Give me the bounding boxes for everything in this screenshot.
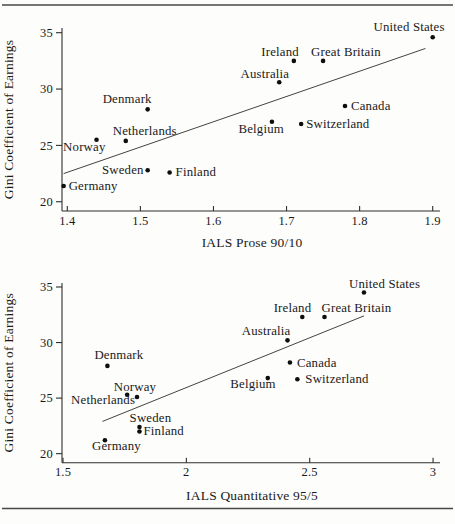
y-tick-label-20: 20 [40,195,53,209]
data-point-ireland [292,59,297,64]
x-axis-title: IALS Prose 90/10 [202,235,303,250]
x-tick-label-2-5: 2.5 [302,465,318,479]
point-label-canada: Canada [351,99,391,113]
x-tick-label-1-5: 1.5 [55,465,71,479]
data-point-ireland [300,315,305,320]
point-label-netherlands: Netherlands [113,124,177,138]
y-tick-label-30: 30 [40,82,53,96]
y-axis-title: Gini Coefficient of Earnings [1,40,16,199]
data-point-denmark [105,364,110,369]
x-tick-label-1-8: 1.8 [352,214,368,228]
data-point-finland [167,170,172,175]
y-axis-title: Gini Coefficient of Earnings [1,293,16,452]
x-tick-label-1-6: 1.6 [205,214,221,228]
point-label-australia: Australia [241,67,290,81]
data-point-switzerland [299,122,304,127]
data-point-united-states [430,35,435,40]
data-point-sweden [137,425,142,430]
point-label-sweden: Sweden [102,163,144,177]
y-tick-label-25: 25 [40,391,53,405]
point-label-germany: Germany [69,179,118,193]
x-tick-label-3: 3 [430,465,436,479]
point-label-finland: Finland [176,165,217,179]
data-point-canada [288,360,293,365]
point-label-switzerland: Switzerland [305,372,369,386]
data-point-finland [137,429,142,434]
y-tick-label-35: 35 [40,26,53,40]
point-label-australia: Australia [242,324,291,338]
x-axis-title: IALS Quantitative 95/5 [186,488,318,503]
data-point-norway [135,395,140,400]
x-tick-label-2: 2 [183,465,189,479]
x-tick-label-1-7: 1.7 [278,214,294,228]
data-point-united-states [362,290,367,295]
point-label-belgium: Belgium [238,122,283,136]
point-label-switzerland: Switzerland [306,117,370,131]
data-point-netherlands [123,139,128,144]
point-label-canada: Canada [297,356,337,370]
y-tick-label-25: 25 [40,139,53,153]
point-label-sweden: Sweden [130,411,172,425]
x-tick-label-1-4: 1.4 [59,214,76,228]
point-label-great-britain: Great Britain [311,45,381,59]
figure-canvas: 202530351.41.51.61.71.81.9GermanyNorwayN… [0,0,455,524]
point-label-finland: Finland [143,424,184,438]
scatter-chart-ials-quantitative: 202530351.522.53GermanyDenmarkNetherland… [1,277,440,503]
data-point-australia [285,338,290,343]
data-point-sweden [145,168,150,173]
data-point-great-britain [322,315,327,320]
data-point-denmark [145,107,150,112]
data-point-germany [61,184,66,189]
point-label-united-states: United States [349,277,420,291]
point-label-germany: Germany [92,439,141,453]
data-point-great-britain [321,59,326,64]
y-tick-label-20: 20 [40,447,53,461]
y-tick-label-30: 30 [40,336,53,350]
point-label-norway: Norway [63,140,106,154]
point-label-ireland: Ireland [261,45,299,59]
point-label-denmark: Denmark [94,348,143,362]
y-tick-label-35: 35 [40,280,53,294]
point-label-belgium: Belgium [230,377,275,391]
scatter-chart-ials-prose: 202530351.41.51.61.71.81.9GermanyNorwayN… [1,20,445,250]
point-label-ireland: Ireland [274,301,312,315]
x-tick-label-1-9: 1.9 [425,214,441,228]
x-tick-label-1-5: 1.5 [132,214,148,228]
point-label-great-britain: Great Britain [322,301,392,315]
point-label-denmark: Denmark [103,92,152,106]
point-label-netherlands: Netherlands [71,393,135,407]
point-label-united-states: United States [373,20,444,34]
data-point-canada [343,104,348,109]
point-label-norway: Norway [114,380,157,394]
data-point-switzerland [295,377,300,382]
